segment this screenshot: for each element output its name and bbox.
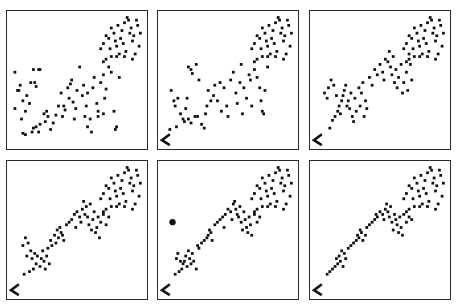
data-point: [184, 255, 187, 258]
data-point: [256, 76, 259, 79]
data-point: [123, 21, 126, 24]
data-point: [134, 53, 137, 56]
data-point: [110, 177, 113, 180]
data-point: [264, 89, 267, 92]
data-point: [223, 226, 226, 229]
data-point: [131, 190, 134, 193]
data-point: [336, 262, 339, 265]
data-point: [91, 86, 94, 89]
data-point: [105, 34, 108, 37]
data-point: [122, 42, 125, 45]
data-point: [103, 97, 106, 100]
data-point: [232, 203, 235, 206]
data-point: [394, 68, 397, 71]
data-point: [364, 99, 367, 102]
data-point: [232, 71, 235, 74]
data-point: [339, 112, 342, 115]
data-point: [400, 226, 403, 229]
data-point: [207, 89, 210, 92]
data-point: [416, 32, 419, 35]
data-point: [249, 79, 252, 82]
data-point: [99, 81, 102, 84]
data-point: [175, 125, 178, 128]
data-point: [173, 99, 176, 102]
data-point: [260, 99, 263, 102]
data-point: [426, 55, 429, 58]
data-point: [242, 86, 245, 89]
data-point: [122, 192, 125, 195]
data-point: [219, 81, 222, 84]
data-point: [383, 79, 386, 82]
data-point: [174, 105, 177, 108]
data-point: [425, 42, 428, 45]
data-point: [190, 122, 193, 125]
data-point: [115, 195, 118, 198]
data-point: [334, 115, 337, 118]
data-point: [250, 105, 253, 108]
data-point: [434, 40, 437, 43]
data-point: [393, 213, 396, 216]
data-point: [123, 205, 126, 208]
data-point: [136, 174, 139, 177]
data-point: [434, 208, 437, 211]
data-point: [373, 68, 376, 71]
data-point: [438, 19, 441, 22]
data-point: [335, 94, 338, 97]
data-point: [192, 260, 195, 263]
data-point: [68, 97, 71, 100]
data-point: [351, 115, 354, 118]
data-point: [196, 244, 199, 247]
data-point: [270, 37, 273, 40]
data-point: [227, 115, 230, 118]
data-point: [389, 205, 392, 208]
data-point: [55, 114, 58, 117]
data-point: [335, 257, 338, 260]
data-point: [80, 221, 83, 224]
data-point: [25, 255, 28, 258]
data-point: [78, 216, 81, 219]
data-point: [213, 84, 216, 87]
data-point: [98, 236, 101, 239]
data-point: [102, 192, 105, 195]
data-point: [102, 42, 105, 45]
data-point: [29, 249, 32, 252]
data-point: [439, 24, 442, 27]
data-point: [287, 24, 290, 27]
data-point: [426, 205, 429, 208]
data-point: [355, 110, 358, 113]
data-point: [241, 229, 244, 232]
outlier-point: [169, 219, 175, 225]
data-point: [184, 107, 187, 110]
data-point: [261, 177, 264, 180]
data-point: [368, 76, 371, 79]
data-point: [182, 262, 185, 265]
data-point: [278, 169, 281, 172]
corner-chevron-icon: [162, 134, 170, 145]
data-point: [136, 24, 139, 27]
data-point: [48, 262, 51, 265]
data-point: [206, 105, 209, 108]
data-point: [115, 125, 118, 128]
data-point: [285, 203, 288, 206]
data-point: [191, 252, 194, 255]
data-point: [290, 182, 293, 185]
data-point: [409, 63, 412, 66]
data-point: [126, 16, 129, 19]
data-point: [37, 68, 40, 71]
data-point: [408, 216, 411, 219]
data-point: [86, 92, 89, 95]
data-point: [421, 53, 424, 56]
data-point: [361, 81, 364, 84]
data-point: [195, 268, 198, 271]
data-point: [49, 128, 52, 131]
data-point: [281, 177, 284, 180]
data-point: [236, 102, 239, 105]
data-point: [360, 92, 363, 95]
data-point: [334, 265, 337, 268]
data-point: [285, 53, 288, 56]
data-point: [397, 231, 400, 234]
data-point: [99, 197, 102, 200]
data-point: [442, 32, 445, 35]
data-point: [261, 27, 264, 30]
data-point: [434, 58, 437, 61]
